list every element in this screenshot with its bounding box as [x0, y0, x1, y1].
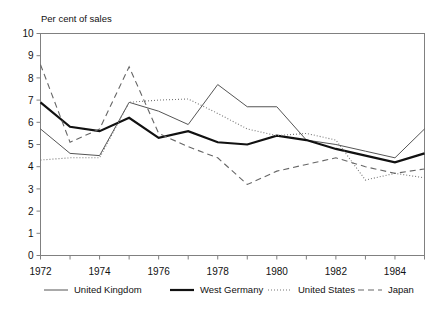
legend-label-west-germany: West Germany — [200, 284, 263, 295]
x-tick-label: 1972 — [29, 266, 52, 277]
series-line-united-states — [41, 99, 425, 180]
axis-title-group: Per cent of sales — [41, 13, 112, 24]
y-tick-label: 9 — [28, 50, 34, 61]
series-line-japan — [41, 65, 425, 185]
x-axis-ticks: 1972197419761978198019821984 — [29, 256, 424, 277]
y-axis-ticks: 012345678910 — [22, 28, 40, 261]
plot-frame — [41, 34, 425, 256]
y-tick-label: 4 — [28, 161, 34, 172]
chart-legend: United KingdomWest GermanyUnited StatesJ… — [44, 284, 414, 295]
x-tick-label: 1982 — [325, 266, 348, 277]
series-line-west-germany — [41, 102, 425, 162]
legend-label-japan: Japan — [388, 284, 414, 295]
y-tick-label: 0 — [28, 250, 34, 261]
y-tick-label: 2 — [28, 206, 34, 217]
x-tick-label: 1974 — [88, 266, 111, 277]
chart-container: Per cent of sales 012345678910 197219741… — [0, 0, 445, 315]
series-group — [41, 65, 425, 185]
y-tick-label: 3 — [28, 184, 34, 195]
y-tick-label: 5 — [28, 139, 34, 150]
line-chart: Per cent of sales 012345678910 197219741… — [0, 0, 445, 315]
x-tick-label: 1976 — [148, 266, 171, 277]
legend-label-united-kingdom: United Kingdom — [74, 284, 142, 295]
y-tick-label: 1 — [28, 228, 34, 239]
y-tick-label: 8 — [28, 73, 34, 84]
x-tick-label: 1978 — [207, 266, 230, 277]
y-tick-label: 6 — [28, 117, 34, 128]
y-tick-label: 7 — [28, 95, 34, 106]
chart-title: Per cent of sales — [41, 13, 112, 24]
y-tick-label: 10 — [22, 28, 34, 39]
x-tick-label: 1980 — [266, 266, 289, 277]
legend-label-united-states: United States — [298, 284, 355, 295]
series-line-united-kingdom — [41, 85, 425, 158]
x-tick-label: 1984 — [384, 266, 407, 277]
